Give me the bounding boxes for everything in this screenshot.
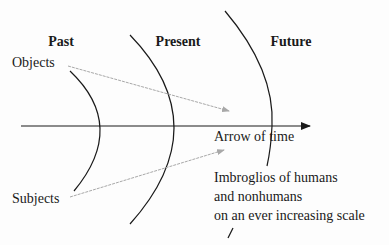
subjects-label: Subjects (12, 192, 59, 206)
axis-label: Arrow of time (214, 130, 294, 144)
past-arc (70, 71, 100, 191)
objects-label: Objects (12, 56, 55, 70)
present-arc (130, 35, 174, 224)
subjects-trajectory-arrow (70, 150, 224, 197)
arrow-of-time-diagram: Past Present Future Objects Subjects Arr… (0, 0, 389, 245)
objects-trajectory-arrow (68, 66, 229, 111)
era-label-past: Past (48, 35, 74, 49)
note-line-2: and nonhumans (214, 190, 302, 204)
future-arc-tail (228, 228, 233, 238)
era-label-future: Future (271, 35, 312, 49)
era-label-present: Present (156, 35, 201, 49)
note-line-1: Imbroglios of humans (214, 171, 338, 185)
note-line-3: on an ever increasing scale (214, 209, 365, 223)
